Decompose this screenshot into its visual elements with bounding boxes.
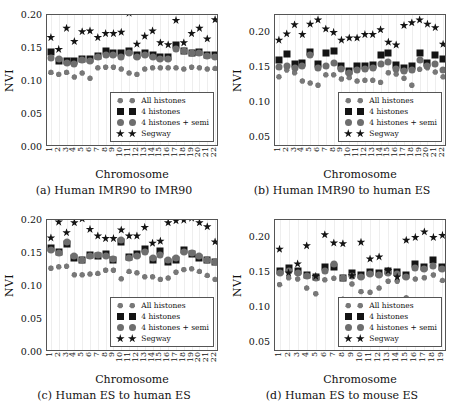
data-point-circle	[299, 63, 306, 70]
gridline	[310, 15, 311, 145]
data-point-circle	[141, 51, 148, 58]
legend-marker-pair	[114, 117, 138, 128]
data-point-square	[440, 56, 446, 63]
x-tick-label: 6	[320, 352, 328, 357]
data-point-circle	[307, 52, 314, 59]
gridline	[215, 15, 216, 145]
star-marker-icon	[356, 334, 365, 343]
data-point-circle	[71, 253, 78, 260]
data-point-circle	[421, 265, 428, 272]
plot-area-d: NVI 0.050.100.150.20 All histones4 histo…	[228, 205, 456, 377]
data-point-circle	[376, 271, 383, 278]
square-marker-icon	[345, 313, 352, 320]
gridline	[325, 220, 326, 350]
y-tick-label: 0.15	[249, 61, 270, 72]
gridline	[316, 220, 317, 350]
data-point-circle	[180, 47, 187, 54]
data-point-circle	[283, 62, 290, 69]
data-point-circle	[188, 50, 195, 57]
legend-label: Segway	[367, 334, 399, 343]
legend-label: 4 histones	[139, 312, 180, 321]
gridline	[90, 220, 91, 350]
data-point-circle	[432, 60, 439, 67]
star-marker-icon	[344, 129, 353, 138]
legend-label: 4 histones + semi	[139, 323, 209, 332]
legend-marker-pair	[342, 311, 366, 322]
legend-label: 4 histones	[367, 312, 408, 321]
y-tick-label: 0.00	[21, 141, 42, 152]
data-point-circle	[212, 53, 218, 60]
data-point-circle	[401, 68, 408, 75]
data-point-circle	[102, 52, 109, 59]
data-point-circle	[196, 253, 203, 260]
heptagon-marker-icon	[117, 98, 123, 104]
legend-item: 4 histones + semi	[342, 322, 437, 333]
y-tick-label: 0.20	[249, 26, 270, 37]
data-point-square	[322, 49, 329, 56]
data-point-circle	[173, 255, 180, 262]
axes-b: All histones4 histones4 histones + semiS…	[274, 14, 446, 146]
legend: All histones4 histones4 histones + semiS…	[110, 92, 214, 142]
legend-label: All histones	[367, 301, 413, 310]
data-point-circle	[321, 267, 328, 274]
circle-marker-icon	[129, 324, 136, 331]
legend-label: Segway	[367, 129, 399, 138]
data-point-circle	[322, 62, 329, 69]
data-point-circle	[79, 56, 86, 63]
data-point-circle	[94, 251, 101, 258]
y-tick-label: 0.10	[249, 300, 270, 311]
data-point-circle	[87, 58, 94, 65]
data-point-circle	[149, 54, 156, 61]
data-point-circle	[196, 50, 203, 57]
axes-d: All histones4 histones4 histones + semiS…	[274, 219, 446, 351]
x-tick-label: 19	[437, 352, 445, 362]
data-point-circle	[133, 54, 140, 61]
plot-area-c: NVI 0.000.050.100.150.20 All histones4 h…	[0, 205, 228, 377]
legend-item: All histones	[114, 95, 209, 106]
legend-label: 4 histones + semi	[139, 118, 209, 127]
gridline	[442, 220, 443, 350]
data-point-circle	[63, 59, 70, 66]
panel-a: NVI 0.000.050.100.150.20 All histones4 h…	[0, 0, 228, 205]
data-point-circle	[141, 248, 148, 255]
heptagon-marker-icon	[129, 303, 135, 309]
heptagon-marker-icon	[129, 98, 135, 104]
data-point-circle	[275, 64, 282, 71]
legend-item: Segway	[342, 333, 437, 344]
y-tick-label: 0.10	[21, 75, 42, 86]
legend-label: 4 histones + semi	[367, 323, 437, 332]
data-point-circle	[63, 238, 70, 245]
circle-marker-icon	[129, 119, 136, 126]
data-point-square	[377, 52, 384, 59]
circle-marker-icon	[345, 119, 352, 126]
legend-label: Segway	[139, 334, 171, 343]
heptagon-marker-icon	[357, 303, 363, 309]
legend-item: 4 histones	[114, 311, 209, 322]
legend-item: 4 histones	[114, 106, 209, 117]
y-tick-labels-b: 0.050.100.150.20	[242, 14, 272, 146]
data-point-circle	[126, 254, 133, 261]
data-point-circle	[212, 258, 218, 265]
data-point-circle	[94, 53, 101, 60]
gridline	[318, 15, 319, 145]
data-point-circle	[110, 51, 117, 58]
square-marker-icon	[117, 313, 124, 320]
heptagon-marker-icon	[357, 98, 363, 104]
x-tick-label: 22	[210, 352, 218, 362]
data-point-circle	[188, 250, 195, 257]
data-point-circle	[424, 63, 431, 70]
legend-marker-pair	[114, 333, 138, 344]
y-tick-label: 0.20	[21, 214, 42, 225]
data-point-square	[385, 50, 392, 57]
y-tick-label: 0.05	[249, 335, 270, 346]
caption-b: (b) Human IMR90 to human ES	[228, 184, 456, 197]
data-point-square	[330, 48, 337, 55]
legend-label: 4 histones	[367, 107, 408, 116]
plot-area-b: NVI 0.050.100.150.20 All histones4 histo…	[228, 0, 456, 172]
circle-marker-icon	[345, 324, 352, 331]
data-point-circle	[133, 253, 140, 260]
data-point-circle	[430, 262, 437, 269]
legend-marker-pair	[114, 300, 138, 311]
legend-marker-pair	[342, 322, 366, 333]
data-point-circle	[157, 55, 164, 62]
